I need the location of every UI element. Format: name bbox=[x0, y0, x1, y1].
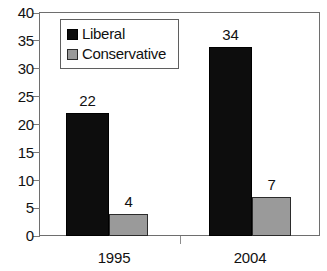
x-category-label-2004: 2004 bbox=[214, 250, 286, 265]
y-tick-label-0: 0 bbox=[0, 228, 34, 243]
legend-entry-conservative: Conservative bbox=[67, 44, 173, 64]
value-label-1995-conservative: 4 bbox=[109, 194, 148, 209]
legend-entry-liberal: Liberal bbox=[67, 24, 173, 44]
bar-2004-liberal bbox=[209, 47, 252, 236]
legend-label-liberal: Liberal bbox=[82, 26, 125, 42]
y-tick-mark-10 bbox=[33, 180, 40, 181]
value-label-1995-liberal: 22 bbox=[66, 93, 109, 108]
y-tick-label-5: 5 bbox=[0, 200, 34, 215]
y-tick-mark-40 bbox=[33, 13, 40, 14]
y-tick-label-15: 15 bbox=[0, 145, 34, 160]
legend-swatch-icon-conservative bbox=[67, 49, 78, 60]
bar-1995-conservative bbox=[109, 214, 148, 236]
bar-2004-conservative bbox=[252, 197, 291, 236]
y-tick-label-40: 40 bbox=[0, 5, 34, 20]
value-label-2004-liberal: 34 bbox=[209, 27, 252, 42]
x-category-label-1995: 1995 bbox=[78, 250, 150, 265]
y-tick-label-25: 25 bbox=[0, 89, 34, 104]
y-tick-label-10: 10 bbox=[0, 173, 34, 188]
y-tick-mark-25 bbox=[33, 96, 40, 97]
legend-label-conservative: Conservative bbox=[82, 46, 166, 62]
value-label-2004-conservative: 7 bbox=[252, 177, 291, 192]
y-tick-label-30: 30 bbox=[0, 61, 34, 76]
y-tick-mark-15 bbox=[33, 152, 40, 153]
y-tick-label-35: 35 bbox=[0, 33, 34, 48]
x-category-divider bbox=[180, 236, 181, 244]
legend: Liberal Conservative bbox=[60, 19, 179, 69]
y-axis-labels: 40 35 30 25 20 15 10 5 0 bbox=[0, 0, 34, 271]
bar-chart: 40 35 30 25 20 15 10 5 0 22 4 34 7 1995 … bbox=[0, 0, 327, 271]
legend-swatch-icon-liberal bbox=[67, 29, 78, 40]
y-tick-mark-20 bbox=[33, 124, 40, 125]
bar-1995-liberal bbox=[66, 113, 109, 236]
y-tick-label-20: 20 bbox=[0, 117, 34, 132]
y-tick-mark-0 bbox=[33, 236, 40, 237]
y-tick-mark-30 bbox=[33, 68, 40, 69]
y-tick-mark-35 bbox=[33, 40, 40, 41]
y-tick-mark-5 bbox=[33, 208, 40, 209]
